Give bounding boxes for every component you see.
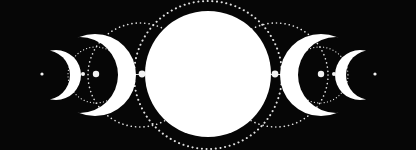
dot-icon bbox=[272, 71, 279, 78]
dot-icon bbox=[373, 72, 376, 75]
small-crescent-right-icon bbox=[0, 0, 416, 150]
dot-icon bbox=[318, 71, 324, 77]
dot-icon bbox=[93, 71, 99, 77]
moon-phases-artwork: Moon phases illustration: waxing crescen… bbox=[0, 0, 416, 150]
dot-icon bbox=[81, 72, 85, 76]
dot-icon bbox=[139, 71, 146, 78]
moon-phases-svg bbox=[0, 0, 416, 150]
dot-icon bbox=[40, 72, 43, 75]
dot-icon bbox=[332, 72, 336, 76]
